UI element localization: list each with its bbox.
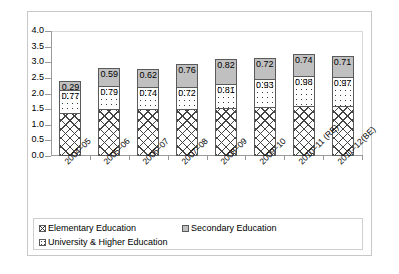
- bar-value-label: 0.98: [294, 78, 314, 87]
- cross-hatch-swatch-icon: [39, 225, 46, 232]
- legend-label-university: University & Higher Education: [48, 237, 168, 247]
- y-tick-label: 3.0: [18, 57, 44, 66]
- bar-value-label: 0.72: [255, 60, 275, 69]
- bar-segment: 0.97: [332, 77, 354, 107]
- y-tick-label: 1.5: [18, 104, 44, 113]
- bar-value-label: 0.97: [333, 79, 353, 88]
- bar-value-label: 0.59: [99, 70, 119, 79]
- bar-value-label: 0.62: [138, 71, 158, 80]
- bar-segment: 0.79: [98, 86, 120, 111]
- bar-segment: 0.76: [176, 64, 198, 88]
- x-axis-labels: 2004–052005–062006–072007–082008–092009–…: [51, 160, 362, 220]
- bar-value-label: 0.82: [216, 61, 236, 70]
- y-tick-label: 0.5: [18, 135, 44, 144]
- bar-segment: 0.81: [215, 84, 237, 109]
- gray-swatch-icon: [182, 225, 189, 232]
- chart-screenshot: 4.03.53.02.52.01.51.00.50.0 0.290.770.59…: [0, 0, 399, 274]
- bar-stack: 0.820.81: [215, 60, 237, 156]
- bar-segment: 0.72: [254, 58, 276, 81]
- y-tick-label: 2.5: [18, 73, 44, 82]
- y-tick-label: 0.0: [18, 151, 44, 160]
- bar-segment: 0.62: [137, 69, 159, 88]
- bar-value-label: 0.81: [216, 86, 236, 95]
- bar-segment: 0.98: [293, 76, 315, 107]
- y-tick-label: 1.0: [18, 120, 44, 129]
- legend-item-elementary: Elementary Education: [39, 223, 136, 233]
- bar-stack: 0.740.98: [293, 55, 315, 156]
- y-tick-label: 2.0: [18, 89, 44, 98]
- bar-segment: 0.93: [254, 79, 276, 108]
- x-tick-mark: [362, 156, 363, 160]
- bar-stack: 0.710.97: [332, 57, 354, 157]
- bar-value-label: 0.72: [177, 89, 197, 98]
- y-tick-label: 3.5: [18, 42, 44, 51]
- bar-segment: 0.82: [215, 59, 237, 85]
- plot-area: 0.290.770.590.790.620.740.760.720.820.81…: [51, 31, 362, 156]
- bar-value-label: 0.74: [294, 56, 314, 65]
- chart-legend: Elementary Education Secondary Education…: [33, 218, 363, 250]
- y-tick-label: 4.0: [18, 26, 44, 35]
- legend-label-elementary: Elementary Education: [48, 223, 136, 233]
- dotted-swatch-icon: [39, 239, 46, 246]
- bar-segment: 0.77: [59, 90, 81, 114]
- bar-segment: 0.71: [332, 56, 354, 78]
- bar-segment: 0.74: [293, 54, 315, 77]
- y-tick-mark: [45, 156, 51, 157]
- bar-stack: 0.720.93: [254, 59, 276, 156]
- legend-item-university: University & Higher Education: [39, 237, 168, 247]
- bar-segment: 0.72: [176, 87, 198, 110]
- legend-item-secondary: Secondary Education: [182, 223, 277, 233]
- bar-value-label: 0.76: [177, 66, 197, 75]
- bar-value-label: 0.77: [60, 92, 80, 101]
- bar-segment: 0.74: [137, 87, 159, 110]
- bar-segment: 0.59: [98, 68, 120, 86]
- bar-value-label: 0.79: [99, 88, 119, 97]
- bar-value-label: 0.93: [255, 81, 275, 90]
- legend-label-secondary: Secondary Education: [191, 223, 277, 233]
- bar-value-label: 0.71: [333, 58, 353, 67]
- bar-value-label: 0.74: [138, 89, 158, 98]
